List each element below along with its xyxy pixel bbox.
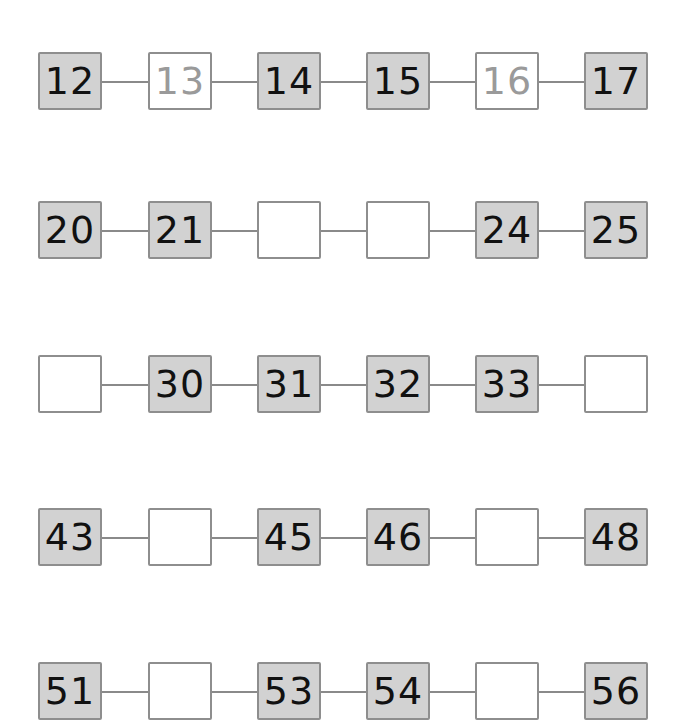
connector-line: [539, 691, 584, 693]
connector-line: [102, 691, 148, 693]
answer-box[interactable]: [475, 662, 539, 720]
number-box: 14: [257, 52, 321, 110]
connector-line: [102, 384, 148, 386]
answer-box[interactable]: [366, 201, 430, 259]
number-box: 32: [366, 355, 430, 413]
connector-line: [321, 384, 366, 386]
answer-box[interactable]: [475, 508, 539, 566]
connector-line: [430, 691, 475, 693]
sequence-row-2: 20212425: [0, 201, 684, 261]
sequence-row-5: 51535456: [0, 662, 684, 722]
number-box: 43: [38, 508, 102, 566]
connector-line: [321, 691, 366, 693]
connector-line: [321, 537, 366, 539]
number-box: 45: [257, 508, 321, 566]
answer-box[interactable]: [148, 508, 212, 566]
connector-line: [539, 230, 584, 232]
answer-box[interactable]: [38, 355, 102, 413]
connector-line: [430, 384, 475, 386]
number-box: 48: [584, 508, 648, 566]
connector-line: [212, 691, 257, 693]
connector-line: [102, 537, 148, 539]
number-box: 16: [475, 52, 539, 110]
answer-box[interactable]: [148, 662, 212, 720]
connector-line: [212, 81, 257, 83]
connector-line: [430, 81, 475, 83]
number-box: 13: [148, 52, 212, 110]
connector-line: [212, 384, 257, 386]
number-box: 56: [584, 662, 648, 720]
answer-box[interactable]: [257, 201, 321, 259]
number-box: 25: [584, 201, 648, 259]
connector-line: [539, 81, 584, 83]
number-box: 30: [148, 355, 212, 413]
connector-line: [212, 230, 257, 232]
number-box: 46: [366, 508, 430, 566]
connector-line: [212, 537, 257, 539]
connector-line: [430, 537, 475, 539]
connector-line: [539, 537, 584, 539]
number-box: 31: [257, 355, 321, 413]
connector-line: [321, 230, 366, 232]
number-box: 12: [38, 52, 102, 110]
number-box: 15: [366, 52, 430, 110]
connector-line: [539, 384, 584, 386]
connector-line: [102, 81, 148, 83]
number-box: 24: [475, 201, 539, 259]
connector-line: [321, 81, 366, 83]
number-box: 17: [584, 52, 648, 110]
number-box: 20: [38, 201, 102, 259]
number-box: 33: [475, 355, 539, 413]
number-box: 51: [38, 662, 102, 720]
sequence-row-1: 121314151617: [0, 52, 684, 112]
connector-line: [430, 230, 475, 232]
connector-line: [102, 230, 148, 232]
number-box: 53: [257, 662, 321, 720]
number-box: 54: [366, 662, 430, 720]
answer-box[interactable]: [584, 355, 648, 413]
sequence-row-4: 43454648: [0, 508, 684, 568]
number-box: 21: [148, 201, 212, 259]
sequence-row-3: 30313233: [0, 355, 684, 415]
